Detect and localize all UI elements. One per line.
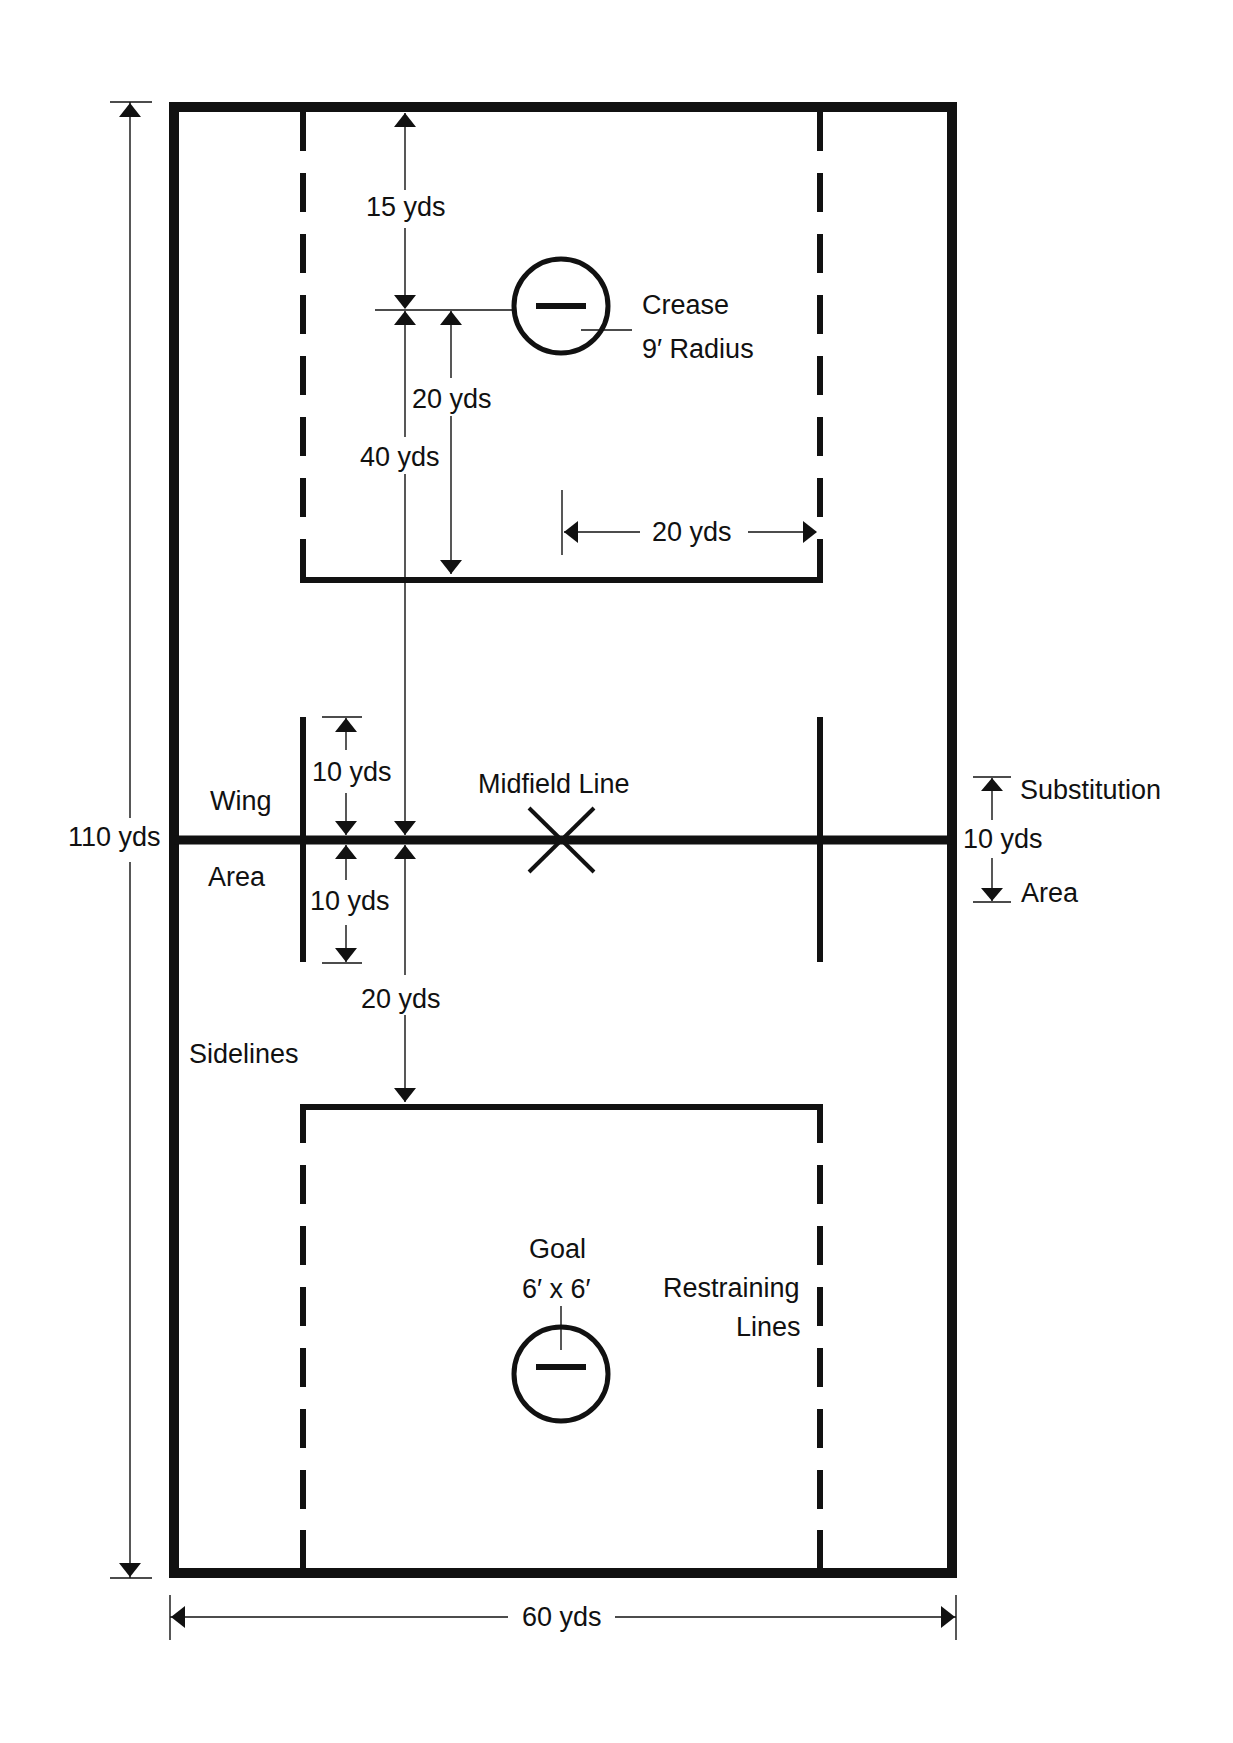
label-wing-down-10yds: 10 yds — [310, 886, 390, 916]
label-substitution: Substitution — [1020, 775, 1161, 805]
length-label: 110 yds — [68, 822, 161, 852]
label-20yds-horizontal: 20 yds — [652, 517, 732, 547]
top-goal — [536, 303, 586, 309]
bottom-goal — [536, 1364, 586, 1370]
label-restraining: Restraining — [663, 1273, 800, 1303]
label-substitution-10yds: 10 yds — [963, 824, 1043, 854]
label-goal-size: 6′ x 6′ — [522, 1274, 591, 1304]
label-20yds-midfield-restraining: 20 yds — [361, 984, 441, 1014]
dim-20yds-midfield-restraining — [394, 845, 416, 1102]
label-goal: Goal — [529, 1234, 586, 1264]
dim-20yds-goal-restraining — [440, 311, 462, 574]
label-wing-up-10yds: 10 yds — [312, 757, 392, 787]
lacrosse-field-diagram: 110 yds 60 yds 15 yds 40 yds 20 yds — [0, 0, 1233, 1743]
bottom-crease — [514, 1306, 608, 1421]
crease-title: Crease — [642, 290, 729, 320]
label-wing: Wing — [210, 786, 272, 816]
label-midfield-line: Midfield Line — [478, 769, 630, 799]
label-area: Area — [208, 862, 266, 892]
label-20yds-goal-restraining: 20 yds — [412, 384, 492, 414]
crease-radius: 9′ Radius — [642, 334, 754, 364]
label-substitution-area: Area — [1021, 878, 1079, 908]
label-sidelines: Sidelines — [189, 1039, 299, 1069]
label-restraining-lines: Lines — [736, 1312, 801, 1342]
width-label: 60 yds — [522, 1602, 602, 1632]
top-crease — [375, 259, 632, 353]
label-40yds: 40 yds — [360, 442, 440, 472]
label-15yds: 15 yds — [366, 192, 446, 222]
